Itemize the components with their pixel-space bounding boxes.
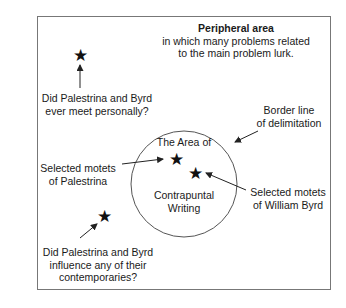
star-icon: ★ xyxy=(169,151,184,168)
byrd-line1: Selected motets xyxy=(250,186,325,199)
arrow-q2 xyxy=(80,224,97,238)
arrow-byrd xyxy=(206,173,246,190)
peripheral-line1: in which many problems related xyxy=(162,35,310,48)
star-icon: ★ xyxy=(97,208,112,225)
palestrina-line1: Selected motets xyxy=(40,162,115,175)
palestrina-line2: of Palestrina xyxy=(40,175,115,188)
circle-bottom-label: Contrapuntal Writing xyxy=(154,189,214,214)
byrd-line2: of William Byrd xyxy=(250,199,325,212)
circle-bottom2: Writing xyxy=(154,202,214,215)
border-line2: of delimitation xyxy=(257,117,322,130)
q2-line1: Did Palestrina and Byrd xyxy=(43,246,153,259)
peripheral-area-label: Peripheral area in which many problems r… xyxy=(162,22,310,60)
star-icon: ★ xyxy=(188,165,203,182)
q2-line2: influence any of their xyxy=(43,259,153,272)
arrow-palestrina xyxy=(122,159,163,164)
q1-line1: Did Palestrina and Byrd xyxy=(42,92,152,105)
circle-top-label: The Area of xyxy=(157,136,211,149)
q2-line3: contemporaries? xyxy=(43,271,153,284)
question-meet-label: Did Palestrina and Byrd ever meet person… xyxy=(42,92,152,117)
byrd-motets-label: Selected motets of William Byrd xyxy=(250,186,325,211)
palestrina-motets-label: Selected motets of Palestrina xyxy=(40,162,115,187)
q1-line2: ever meet personally? xyxy=(42,105,152,118)
arrow-border xyxy=(235,131,258,142)
border-line-label: Border line of delimitation xyxy=(257,104,322,129)
peripheral-title: Peripheral area xyxy=(162,22,310,35)
star-icon: ★ xyxy=(73,47,88,64)
peripheral-line2: to the main problem lurk. xyxy=(162,47,310,60)
border-line1: Border line xyxy=(257,104,322,117)
question-influence-label: Did Palestrina and Byrd influence any of… xyxy=(43,246,153,284)
circle-bottom1: Contrapuntal xyxy=(154,189,214,202)
